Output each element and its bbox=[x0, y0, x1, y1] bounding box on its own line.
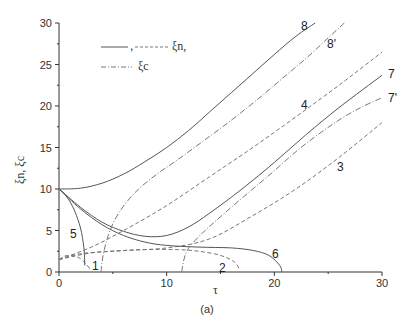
curve-1 bbox=[59, 255, 90, 269]
curve-labels: 12345677'88' bbox=[70, 19, 397, 275]
x-tick-label: 20 bbox=[268, 277, 280, 289]
curve-label: 6 bbox=[272, 247, 279, 261]
curve-label: 8 bbox=[301, 19, 308, 33]
tick-labels: 0102030051015202530 bbox=[40, 17, 388, 289]
x-tick-label: 10 bbox=[161, 277, 173, 289]
y-tick-label: 10 bbox=[40, 183, 52, 195]
curve-label: 4 bbox=[301, 98, 308, 112]
legend: , ξn, ξc bbox=[101, 39, 186, 73]
curve-label: 1 bbox=[92, 259, 99, 273]
curves bbox=[59, 23, 382, 272]
y-tick-label: 20 bbox=[40, 100, 52, 112]
y-tick-label: 0 bbox=[46, 266, 52, 278]
curve-label: 5 bbox=[70, 227, 77, 241]
legend-label-xi-n: ξn, bbox=[172, 39, 186, 53]
curve-2 bbox=[59, 249, 240, 270]
curve-label: 7 bbox=[388, 67, 395, 81]
y-tick-label: 30 bbox=[40, 17, 52, 29]
curve-label: 8' bbox=[327, 37, 336, 51]
chart: 0102030051015202530 12345677'88' , ξn, ξ… bbox=[0, 0, 413, 326]
y-tick-label: 15 bbox=[40, 142, 52, 154]
x-axis-title: τ bbox=[213, 283, 218, 297]
curve-label: 3 bbox=[337, 160, 344, 174]
curve-4 bbox=[59, 52, 382, 260]
legend-label-xi-c: ξc bbox=[138, 59, 149, 73]
figure-caption: (a) bbox=[200, 303, 213, 315]
curve-7prime bbox=[182, 98, 382, 272]
y-tick-label: 5 bbox=[46, 225, 52, 237]
x-tick-label: 0 bbox=[56, 277, 62, 289]
curve-label: 7' bbox=[388, 91, 397, 105]
y-tick-label: 25 bbox=[40, 59, 52, 71]
x-tick-label: 30 bbox=[376, 277, 388, 289]
y-axis-title: ξn, ξc bbox=[13, 156, 27, 184]
legend-separator: , bbox=[130, 39, 133, 53]
curve-label: 2 bbox=[219, 261, 226, 275]
axes bbox=[55, 23, 382, 276]
curve-7 bbox=[59, 75, 382, 236]
curve-8 bbox=[59, 23, 315, 189]
